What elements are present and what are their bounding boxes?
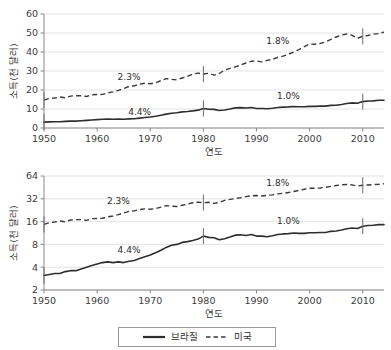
x-tick-label: 2010 [351, 295, 375, 306]
x-tick-label: 2000 [298, 295, 322, 306]
y-tick-label: 2 [32, 284, 38, 295]
y-tick-label: 40 [26, 46, 38, 57]
x-tick-label: 1980 [191, 133, 215, 144]
growth-rate-annotation: 4.4% [128, 107, 151, 117]
y-tick-label: 8 [32, 239, 38, 250]
legend-entry-brazil: 브라질 [142, 332, 198, 342]
x-tick-label: 1960 [85, 133, 109, 144]
legend-solid-line-icon [142, 332, 166, 342]
growth-rate-annotation: 1.8% [266, 178, 289, 188]
y-tick-label: 0 [32, 122, 38, 133]
linear-scale-chart: 0102030405060195019601970198019902000201… [0, 0, 391, 168]
log-scale-chart: 2481632641950196019701980199020002010연도소… [0, 168, 391, 350]
income-comparison-figure: 0102030405060195019601970198019902000201… [0, 0, 391, 350]
growth-rate-annotation: 1.0% [277, 91, 300, 101]
growth-rate-annotation: 2.3% [107, 196, 130, 206]
y-tick-label: 60 [26, 8, 38, 19]
series-line-united-states [44, 184, 384, 225]
x-tick-label: 1950 [32, 133, 56, 144]
x-axis-title: 연도 [205, 308, 223, 319]
growth-rate-annotation: 1.0% [277, 216, 300, 226]
y-tick-label: 20 [26, 84, 38, 95]
y-tick-label: 30 [26, 65, 38, 76]
x-tick-label: 1990 [244, 295, 268, 306]
x-tick-label: 1970 [138, 133, 162, 144]
growth-rate-annotation: 1.8% [266, 36, 289, 46]
chart-legend: 브라질 미국 [118, 327, 276, 347]
legend-dashed-line-icon [205, 332, 229, 342]
chart-panel-linear: 0102030405060195019601970198019902000201… [0, 0, 391, 168]
x-axis-title: 연도 [205, 146, 223, 157]
y-axis-title: 소득(천 달러) [8, 205, 19, 260]
y-tick-label: 10 [26, 103, 38, 114]
chart-panel-log: 2481632641950196019701980199020002010연도소… [0, 168, 391, 350]
legend-label-united-states: 미국 [234, 332, 252, 342]
x-tick-label: 1970 [138, 295, 162, 306]
y-axis-title: 소득(천 달러) [8, 43, 19, 98]
y-tick-label: 50 [26, 27, 38, 38]
x-tick-label: 1960 [85, 295, 109, 306]
x-tick-label: 1990 [244, 133, 268, 144]
x-tick-label: 1950 [32, 295, 56, 306]
y-tick-label: 32 [26, 193, 38, 204]
y-tick-label: 64 [26, 170, 38, 181]
growth-rate-annotation: 4.4% [118, 245, 141, 255]
growth-rate-annotation: 2.3% [118, 72, 141, 82]
x-tick-label: 2000 [298, 133, 322, 144]
y-tick-label: 4 [32, 262, 38, 273]
series-line-brazil [44, 225, 384, 276]
series-line-brazil [44, 100, 384, 122]
y-tick-label: 16 [26, 216, 38, 227]
legend-label-brazil: 브라질 [171, 332, 198, 342]
x-tick-label: 1980 [191, 295, 215, 306]
legend-entry-united-states: 미국 [205, 332, 252, 342]
x-tick-label: 2010 [351, 133, 375, 144]
